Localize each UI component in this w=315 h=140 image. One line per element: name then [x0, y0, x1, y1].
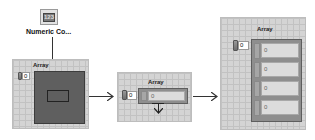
stage3-element-frame: 0 0 0 0	[251, 39, 302, 122]
stage2-element-spinner[interactable]	[141, 91, 147, 101]
stage1-array-label: Array	[33, 62, 49, 68]
numeric-control-icon[interactable]: 123	[40, 9, 58, 25]
stage2-element-frame: 0	[138, 88, 188, 104]
stage3-element-spinner-3[interactable]	[254, 100, 260, 116]
stage3-element-1[interactable]: 0	[261, 62, 299, 77]
arrowhead-right-icon	[107, 92, 114, 101]
stage3-element-0[interactable]: 0	[261, 43, 299, 58]
stage3-panel: Array 0 0 0 0 0	[220, 17, 306, 130]
stage2-index-field[interactable]: 0	[127, 91, 137, 100]
stage3-element-3[interactable]: 0	[261, 100, 299, 115]
stage2-panel: Array 0 0	[117, 72, 192, 122]
stage1-array-shell[interactable]	[34, 71, 85, 124]
arrowhead-right-icon	[211, 92, 218, 101]
stage3-element-spinner-2[interactable]	[254, 81, 260, 97]
resize-arrow-down-icon[interactable]	[154, 108, 163, 114]
stage3-element-2[interactable]: 0	[261, 81, 299, 96]
numeric-control-caption: Numeric Co...	[26, 28, 71, 35]
numeric-glyph: 123	[43, 13, 55, 22]
stage3-index-field[interactable]: 0	[238, 41, 249, 50]
stage1-drop-target[interactable]	[47, 90, 69, 102]
stage3-array-label: Array	[257, 26, 273, 32]
stage2-element-0[interactable]: 0	[148, 91, 185, 101]
stage2-array-label: Array	[148, 79, 164, 85]
stage3-element-spinner-0[interactable]	[254, 43, 260, 59]
stage1-panel: Array 0	[12, 59, 89, 129]
stage1-index-field[interactable]: 0	[22, 72, 30, 80]
stage3-element-spinner-1[interactable]	[254, 62, 260, 78]
